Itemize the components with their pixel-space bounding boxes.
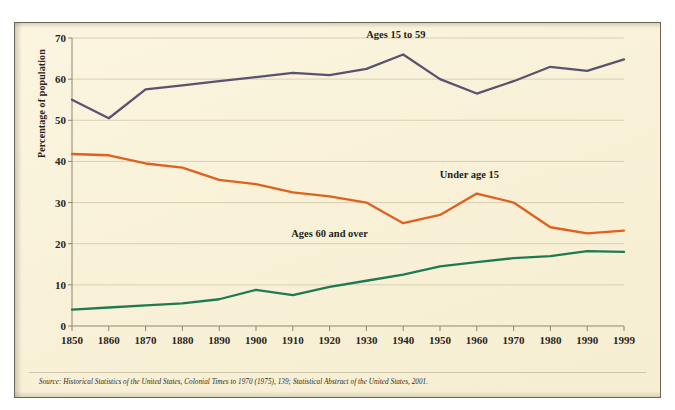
scan-shadow-top — [15, 23, 660, 28]
scan-shadow-bottom — [15, 391, 660, 397]
y-tick-label: 30 — [32, 197, 66, 209]
series-line-1 — [72, 54, 624, 118]
y-tick-label: 70 — [32, 32, 66, 44]
y-tick-label: 50 — [32, 114, 66, 126]
series-line-3 — [72, 251, 624, 309]
source-note: Source: Historical Statistics of the Uni… — [39, 378, 428, 386]
y-tick-label: 60 — [32, 73, 66, 85]
series-label-3: Ages 60 and over — [291, 228, 368, 239]
series-label-1: Ages 15 to 59 — [366, 29, 425, 40]
series-line-2 — [72, 154, 624, 233]
y-tick-label: 40 — [32, 155, 66, 167]
chart-canvas — [72, 38, 624, 348]
y-tick-label: 20 — [32, 238, 66, 250]
y-tick-label: 10 — [32, 279, 66, 291]
y-tick-label: 0 — [32, 320, 66, 332]
figure-root: Percentage of population 010203040506070… — [0, 0, 675, 410]
scan-shadow-left — [15, 23, 22, 397]
series-label-2: Under age 15 — [440, 169, 499, 180]
plot-area: Percentage of population 010203040506070… — [72, 38, 624, 348]
y-axis-tick-labels: 010203040506070 — [32, 38, 66, 348]
figure-frame: Percentage of population 010203040506070… — [14, 22, 661, 398]
source-divider — [29, 372, 646, 373]
